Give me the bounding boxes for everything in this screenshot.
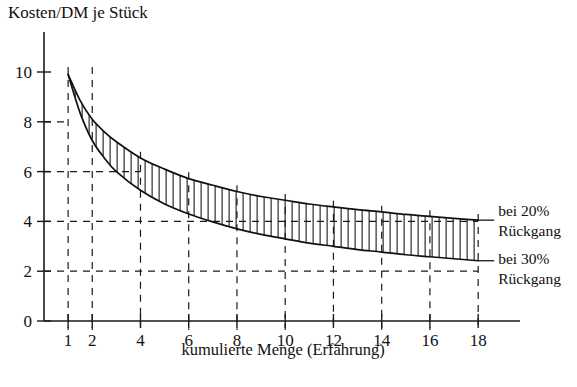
x-tick-label-16: 16 — [421, 331, 438, 350]
curve-20-percent — [68, 74, 478, 220]
x-tick-label-2: 2 — [88, 331, 97, 350]
x-axis-title: kumulierte Menge (Erfahrung) — [181, 340, 384, 359]
y-tick-label-2: 2 — [24, 262, 33, 281]
annotation-30-line2: Rückgang — [498, 270, 561, 287]
y-axis-ticks: 0246810 — [15, 63, 51, 331]
y-tick-label-0: 0 — [24, 312, 33, 331]
curve-30-percent — [68, 74, 478, 260]
x-tick-label-1: 1 — [64, 331, 73, 350]
x-tick-label-4: 4 — [136, 331, 145, 350]
chart-title: Kosten/DM je Stück — [8, 3, 148, 22]
x-tick-label-18: 18 — [470, 331, 487, 350]
series-annotation-20: bei 20% Rückgang — [478, 202, 561, 239]
annotation-30-line1: bei 30% — [498, 250, 549, 267]
y-tick-label-8: 8 — [24, 113, 33, 132]
series-annotation-30: bei 30% Rückgang — [478, 250, 561, 287]
learning-curve-chart: Kosten/DM je Stück 0246810 1246810121416… — [0, 0, 577, 387]
chart-canvas: Kosten/DM je Stück 0246810 1246810121416… — [0, 0, 577, 387]
annotation-20-line2: Rückgang — [498, 222, 561, 239]
y-tick-label-4: 4 — [24, 212, 33, 231]
y-tick-label-10: 10 — [15, 63, 32, 82]
y-tick-label-6: 6 — [24, 163, 33, 182]
annotation-20-line1: bei 20% — [498, 202, 549, 219]
curve-lines — [68, 74, 478, 260]
